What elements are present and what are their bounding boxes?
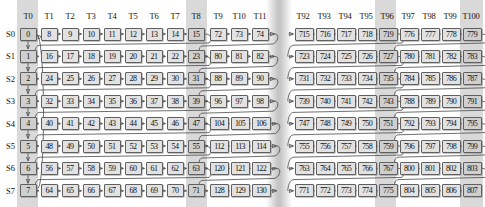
cell-766: 766 xyxy=(358,162,377,175)
cell-98: 98 xyxy=(252,95,269,108)
cell-72: 72 xyxy=(210,28,227,41)
cell-64: 64 xyxy=(41,184,58,197)
cell-767: 767 xyxy=(379,162,398,175)
cell-30: 30 xyxy=(167,72,184,85)
cell-723: 723 xyxy=(295,50,314,63)
cell-70: 70 xyxy=(167,184,184,197)
cell-105: 105 xyxy=(231,117,250,130)
cell-748: 748 xyxy=(316,117,335,130)
cell-743: 743 xyxy=(379,95,398,108)
cell-12: 12 xyxy=(125,28,142,41)
cell-718: 718 xyxy=(358,28,377,41)
cell-784: 784 xyxy=(400,72,419,85)
cell-764: 764 xyxy=(316,162,335,175)
cell-41: 41 xyxy=(62,117,79,130)
cell-26: 26 xyxy=(83,72,100,85)
cell-33: 33 xyxy=(62,95,79,108)
cell-804: 804 xyxy=(400,184,419,197)
cell-128: 128 xyxy=(210,184,229,197)
cell-778: 778 xyxy=(442,28,461,41)
cell-782: 782 xyxy=(442,50,461,63)
row-label-s7: S7 xyxy=(1,186,15,196)
cell-799: 799 xyxy=(463,140,482,153)
cell-774: 774 xyxy=(358,184,377,197)
row-label-s2: S2 xyxy=(1,74,15,84)
cell-27: 27 xyxy=(104,72,121,85)
cell-806: 806 xyxy=(442,184,461,197)
cell-106: 106 xyxy=(252,117,271,130)
cell-777: 777 xyxy=(421,28,440,41)
cell-780: 780 xyxy=(400,50,419,63)
cell-44: 44 xyxy=(125,117,142,130)
cell-89: 89 xyxy=(231,72,248,85)
cell-82: 82 xyxy=(252,50,269,63)
cell-8: 8 xyxy=(41,28,58,41)
cell-716: 716 xyxy=(316,28,335,41)
cell-13: 13 xyxy=(146,28,163,41)
cell-4: 4 xyxy=(20,117,37,130)
cell-794: 794 xyxy=(442,117,461,130)
cell-71: 71 xyxy=(188,184,205,197)
row-label-s0: S0 xyxy=(1,29,15,39)
cell-17: 17 xyxy=(62,50,79,63)
cell-122: 122 xyxy=(252,162,271,175)
cell-37: 37 xyxy=(146,95,163,108)
cell-9: 9 xyxy=(62,28,79,41)
cell-757: 757 xyxy=(337,140,356,153)
cell-733: 733 xyxy=(337,72,356,85)
row-label-s5: S5 xyxy=(1,141,15,151)
cell-789: 789 xyxy=(421,95,440,108)
cell-25: 25 xyxy=(62,72,79,85)
cell-2: 2 xyxy=(20,72,37,85)
cell-788: 788 xyxy=(400,95,419,108)
cell-3: 3 xyxy=(20,95,37,108)
cell-113: 113 xyxy=(231,140,250,153)
cell-50: 50 xyxy=(83,140,100,153)
cell-785: 785 xyxy=(421,72,440,85)
cell-758: 758 xyxy=(358,140,377,153)
cell-62: 62 xyxy=(167,162,184,175)
row-label-s3: S3 xyxy=(1,96,15,106)
cell-121: 121 xyxy=(231,162,250,175)
cell-10: 10 xyxy=(83,28,100,41)
cell-59: 59 xyxy=(104,162,121,175)
cell-771: 771 xyxy=(295,184,314,197)
cell-65: 65 xyxy=(62,184,79,197)
cell-734: 734 xyxy=(358,72,377,85)
cell-796: 796 xyxy=(400,140,419,153)
cell-97: 97 xyxy=(231,95,248,108)
cell-22: 22 xyxy=(167,50,184,63)
cell-739: 739 xyxy=(295,95,314,108)
cell-735: 735 xyxy=(379,72,398,85)
cell-763: 763 xyxy=(295,162,314,175)
cell-781: 781 xyxy=(421,50,440,63)
cell-56: 56 xyxy=(41,162,58,175)
cell-776: 776 xyxy=(400,28,419,41)
cell-81: 81 xyxy=(231,50,248,63)
cell-747: 747 xyxy=(295,117,314,130)
cell-57: 57 xyxy=(62,162,79,175)
cell-795: 795 xyxy=(463,117,482,130)
cell-69: 69 xyxy=(146,184,163,197)
row-label-s6: S6 xyxy=(1,163,15,173)
cell-18: 18 xyxy=(83,50,100,63)
cell-807: 807 xyxy=(463,184,482,197)
cell-21: 21 xyxy=(146,50,163,63)
cell-19: 19 xyxy=(104,50,121,63)
cell-34: 34 xyxy=(83,95,100,108)
cell-68: 68 xyxy=(125,184,142,197)
cell-47: 47 xyxy=(188,117,205,130)
cell-49: 49 xyxy=(62,140,79,153)
cell-88: 88 xyxy=(210,72,227,85)
cell-775: 775 xyxy=(379,184,398,197)
cell-800: 800 xyxy=(400,162,419,175)
cell-749: 749 xyxy=(337,117,356,130)
cell-5: 5 xyxy=(20,140,37,153)
cell-741: 741 xyxy=(337,95,356,108)
cell-732: 732 xyxy=(316,72,335,85)
cell-719: 719 xyxy=(379,28,398,41)
cell-61: 61 xyxy=(146,162,163,175)
column-header-t100: T100 xyxy=(458,11,484,21)
cell-120: 120 xyxy=(210,162,229,175)
cell-727: 727 xyxy=(379,50,398,63)
